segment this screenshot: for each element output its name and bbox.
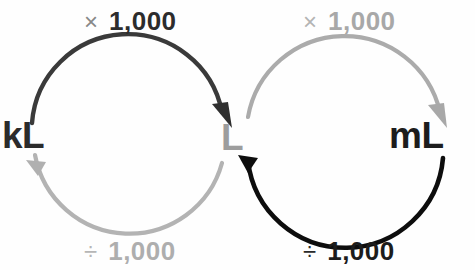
arrow-kl-to-l	[32, 34, 232, 128]
arrow-ml-to-l	[238, 155, 443, 248]
conversion-diagram: kL L mL × 1,000 × 1,000 ÷ 1,000 ÷ 1,000	[0, 0, 475, 270]
multiply-sign-icon: ×	[84, 10, 98, 34]
arrow-kl-to-l-path	[32, 34, 222, 123]
arrow-l-to-kl	[26, 155, 222, 234]
operation-value-bottom-left: 1,000	[108, 238, 176, 264]
arrow-l-to-ml-path	[248, 36, 440, 117]
operation-value-top-left: 1,000	[109, 8, 177, 34]
divide-sign-icon: ÷	[84, 240, 97, 264]
divide-sign-icon: ÷	[303, 240, 316, 264]
operation-label-top-left: × 1,000	[84, 8, 177, 34]
operation-label-bottom-right: ÷ 1,000	[303, 238, 395, 264]
unit-label-ml: mL	[389, 117, 444, 154]
operation-value-top-right: 1,000	[328, 8, 396, 34]
operation-value-bottom-right: 1,000	[327, 238, 395, 264]
arrow-l-to-kl-path	[35, 155, 222, 234]
operation-label-bottom-left: ÷ 1,000	[84, 238, 176, 264]
arrow-l-to-kl-head	[26, 160, 46, 176]
multiply-sign-icon: ×	[303, 10, 317, 34]
arrow-ml-to-l-path	[248, 158, 443, 248]
unit-label-l: L	[221, 119, 243, 156]
operation-label-top-right: × 1,000	[303, 8, 396, 34]
unit-label-kl: kL	[2, 117, 44, 154]
